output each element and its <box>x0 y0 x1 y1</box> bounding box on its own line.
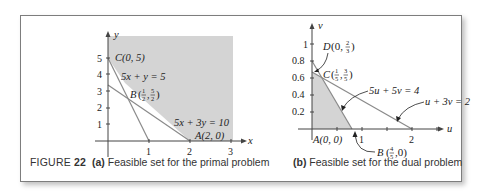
axis-label-v: v <box>318 20 323 31</box>
axis-label-y: y <box>113 29 119 40</box>
figure-number-value: 22 <box>74 156 86 168</box>
x-axis-arrow-icon <box>241 139 247 144</box>
svg-text:4: 4 <box>390 145 394 152</box>
svg-text:2: 2 <box>151 95 154 102</box>
point-label-d: D (0, 2 3 ) <box>322 39 355 54</box>
point-label-b: B ( 1 2 , 5 2 ) <box>130 87 160 102</box>
figure-number: FIGURE 22 <box>30 156 86 168</box>
equation-label-u-3v-2: u + 3v = 2 <box>425 96 471 107</box>
svg-text:): ) <box>351 40 355 53</box>
svg-text:1: 1 <box>335 67 338 74</box>
caption-b-text: Feasible set for the dual problem <box>309 156 462 168</box>
axis-label-u: u <box>447 123 452 134</box>
point-label-a-dual: A(0, 0) <box>312 134 343 146</box>
point-label-c-dual: C ( 1 5 , 3 5 ) <box>323 67 353 82</box>
svg-text:): ) <box>156 88 160 101</box>
svg-text:B: B <box>130 89 137 100</box>
axis-label-x: x <box>247 135 253 146</box>
svg-text:3: 3 <box>346 47 349 54</box>
y-axis-arrow-icon <box>106 31 111 37</box>
svg-text:): ) <box>349 68 353 81</box>
tick-u-1: 1 <box>359 134 364 145</box>
caption-a-text: Feasible set for the primal problem <box>108 156 270 168</box>
tick-v-0.6: 0.6 <box>292 72 305 83</box>
svg-text:5: 5 <box>151 87 154 94</box>
tick-y-2: 2 <box>97 102 102 113</box>
equation-label-5u-5v-4: 5u + 5v = 4 <box>369 85 420 96</box>
svg-text:1: 1 <box>142 87 145 94</box>
panel-a-plot: 1 2 3 1 2 3 4 5 y x C(0, 5) 5x + y = 5 B… <box>95 29 253 157</box>
svg-text:,: , <box>340 69 343 80</box>
caption-panel-a: (a) Feasible set for the primal problem <box>92 156 269 168</box>
v-axis-arrow-icon <box>310 23 315 29</box>
tick-u-2: 2 <box>409 134 414 145</box>
equation-label-5x-y-5: 5x + y = 5 <box>121 71 166 82</box>
equation-label-5x-3y-10: 5x + 3y = 10 <box>174 117 230 128</box>
pointer-5u-5v-4 <box>343 91 368 108</box>
tick-y-4: 4 <box>97 69 102 80</box>
point-label-a: A(2, 0) <box>194 130 225 142</box>
tick-v-0.4: 0.4 <box>292 89 305 100</box>
svg-text:2: 2 <box>142 95 145 102</box>
svg-text:5: 5 <box>335 75 338 82</box>
tick-v-0.8: 0.8 <box>292 55 305 66</box>
tick-v-1: 1 <box>303 39 308 50</box>
panel-b-plot: 1 2 0.2 0.4 0.6 0.8 1 v u D (0, 2 3 ) C … <box>292 20 471 160</box>
caption-panel-b: (b) Feasible set for the dual problem <box>293 156 462 168</box>
svg-text:,: , <box>147 89 150 100</box>
point-label-c: C(0, 5) <box>115 52 145 64</box>
caption-a-tag: (a) <box>92 156 105 168</box>
caption-b-tag: (b) <box>293 156 306 168</box>
tick-y-3: 3 <box>97 86 102 97</box>
svg-text:D: D <box>322 41 331 52</box>
svg-text:C: C <box>323 69 331 80</box>
pointer-u-3v-2 <box>398 102 424 119</box>
u-axis-arrow-icon <box>438 127 444 132</box>
svg-text:5: 5 <box>344 75 347 82</box>
tick-y-1: 1 <box>97 119 102 130</box>
svg-text:3: 3 <box>344 67 347 74</box>
svg-text:2: 2 <box>346 39 349 46</box>
tick-v-0.2: 0.2 <box>292 106 305 117</box>
svg-text:(0,: (0, <box>331 40 343 53</box>
pointer-b <box>355 135 375 152</box>
tick-y-5: 5 <box>97 53 102 64</box>
figure-label-prefix: FIGURE <box>30 156 71 168</box>
